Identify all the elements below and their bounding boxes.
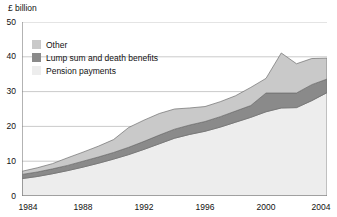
y-axis-unit-label: £ billion <box>8 3 37 13</box>
legend-swatch-pension <box>32 66 41 75</box>
chart-legend: OtherLump sum and death benefitsPension … <box>32 39 158 76</box>
legend-item-label: Other <box>46 40 67 50</box>
y-tick-label-10: 10 <box>0 157 16 166</box>
y-tick-label-20: 20 <box>0 122 16 131</box>
stacked-area-chart: £ billion 01020304050 198419881992199620… <box>0 0 337 217</box>
legend-item: Other <box>32 39 158 50</box>
y-tick-label-0: 0 <box>0 192 16 201</box>
legend-item-label: Lump sum and death benefits <box>46 53 158 63</box>
legend-swatch-lump-sum <box>32 53 41 62</box>
x-tick-label-2000: 2000 <box>249 203 283 212</box>
legend-item: Lump sum and death benefits <box>32 52 158 63</box>
x-tick-label-2004: 2004 <box>304 203 337 212</box>
x-tick-label-1988: 1988 <box>66 203 100 212</box>
y-tick-label-40: 40 <box>0 52 16 61</box>
legend-item: Pension payments <box>32 65 158 76</box>
legend-swatch-other <box>32 40 41 49</box>
y-tick-label-30: 30 <box>0 87 16 96</box>
legend-item-label: Pension payments <box>46 66 116 76</box>
x-tick-label-1996: 1996 <box>188 203 222 212</box>
y-tick-label-50: 50 <box>0 18 16 27</box>
x-tick-label-1984: 1984 <box>11 203 45 212</box>
x-tick-label-1992: 1992 <box>127 203 161 212</box>
